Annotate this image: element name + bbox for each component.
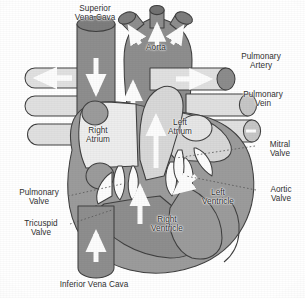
heart-diagram-canvas [0, 0, 305, 298]
inferior-vena-cava-vessel [78, 206, 114, 278]
